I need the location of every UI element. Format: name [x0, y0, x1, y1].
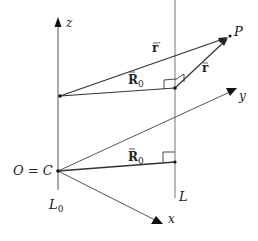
- L-foot-point: [173, 160, 176, 163]
- x-axis: x: [58, 171, 175, 226]
- point-P-label: P: [233, 24, 243, 39]
- L0-point: [58, 94, 62, 98]
- R0-lower-vector: R0: [56, 149, 176, 173]
- origin-label: O = C: [13, 163, 53, 178]
- y-axis: y: [58, 88, 246, 171]
- y-arrow-icon: [226, 88, 237, 96]
- origin-point: [56, 169, 60, 173]
- z-arrow-icon: [55, 17, 62, 27]
- vector-diagram: z r′ R0 r P y x: [0, 0, 258, 241]
- right-angle-marker-lower: [163, 152, 175, 163]
- r-vector: r P: [175, 24, 243, 88]
- x-axis-label: x: [168, 212, 175, 226]
- R0-upper-label: R0: [128, 73, 144, 89]
- L-label: L: [178, 189, 188, 204]
- L0-label: L0: [48, 197, 64, 214]
- point-P: [229, 35, 232, 38]
- z-axis-label: z: [65, 16, 73, 30]
- y-axis-label: y: [238, 89, 246, 103]
- R0-lower-label: R0: [128, 150, 144, 166]
- x-arrow-icon: [151, 216, 163, 224]
- z-axis: z: [55, 16, 74, 190]
